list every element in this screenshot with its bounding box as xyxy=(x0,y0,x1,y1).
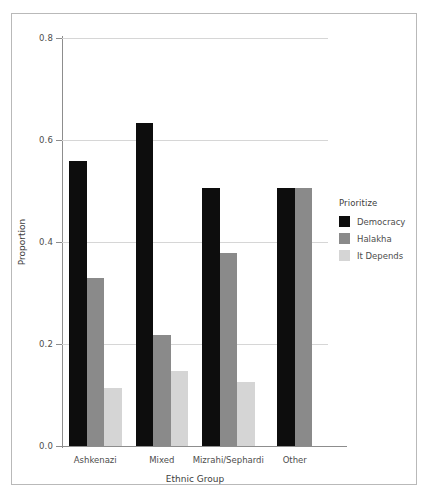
legend-swatch-it-depends xyxy=(339,250,350,261)
bar-group: Other xyxy=(262,38,329,446)
x-axis-line xyxy=(62,446,347,447)
legend-item[interactable]: Halakha xyxy=(339,230,425,247)
bar xyxy=(136,123,154,446)
chart-figure: Proportion 0.00.20.40.60.8 AshkenaziMixe… xyxy=(0,0,432,502)
y-tick-label: 0.2 xyxy=(39,339,53,349)
legend-item-label: It Depends xyxy=(357,251,403,261)
y-tick-label: 0.6 xyxy=(39,135,53,145)
y-tick-label: 0.4 xyxy=(39,237,53,247)
bar xyxy=(69,161,87,446)
bar xyxy=(104,388,122,446)
x-axis-title: Ethnic Group xyxy=(62,474,328,484)
x-tick-label: Other xyxy=(225,455,365,465)
bar-group: Ashkenazi xyxy=(62,38,129,446)
legend-item[interactable]: It Depends xyxy=(339,247,425,264)
legend-swatch-halakha xyxy=(339,233,350,244)
plot-area: 0.00.20.40.60.8 AshkenaziMixedMizrahi/Se… xyxy=(62,38,328,446)
y-tick-label: 0.8 xyxy=(39,33,53,43)
legend-title: Prioritize xyxy=(339,198,425,208)
bar xyxy=(153,335,171,446)
scan-artifact xyxy=(349,402,359,436)
bar xyxy=(87,278,105,446)
bar xyxy=(202,188,220,446)
legend-item-label: Democracy xyxy=(357,217,405,227)
bar-group: Mizrahi/Sephardi xyxy=(195,38,262,446)
legend: Prioritize DemocracyHalakhaIt Depends xyxy=(339,198,425,264)
bar xyxy=(237,382,255,446)
y-tick-mark xyxy=(56,446,62,447)
bar xyxy=(277,188,295,446)
bar-group: Mixed xyxy=(129,38,196,446)
legend-swatch-democracy xyxy=(339,216,350,227)
legend-item[interactable]: Democracy xyxy=(339,213,425,230)
y-tick-label: 0.0 xyxy=(39,441,53,451)
legend-items: DemocracyHalakhaIt Depends xyxy=(339,213,425,264)
y-axis-title: Proportion xyxy=(17,219,27,265)
bar xyxy=(220,253,238,446)
bar xyxy=(295,188,313,446)
legend-item-label: Halakha xyxy=(357,234,392,244)
bar xyxy=(171,371,189,446)
